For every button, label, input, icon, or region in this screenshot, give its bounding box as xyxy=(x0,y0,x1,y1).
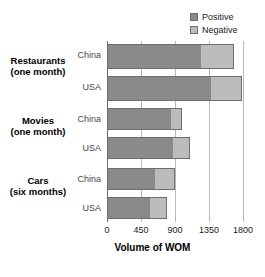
legend-label-positive: Positive xyxy=(202,12,234,22)
x-axis-ticks: 045090013501800 xyxy=(107,225,243,239)
series-label-axis: China USA China USA China USA xyxy=(0,41,105,222)
series-label-restaurants-usa: USA xyxy=(5,82,105,92)
x-tick-label-0: 0 xyxy=(104,225,109,235)
stacked-bar xyxy=(107,137,190,159)
wom-volume-bar-chart: Positive Negative Restaurants (one month… xyxy=(0,0,265,277)
legend-swatch-positive-icon xyxy=(190,13,198,21)
bar-segment-positive xyxy=(108,109,171,129)
bar-segment-negative xyxy=(173,138,189,158)
bar-segment-negative xyxy=(150,198,166,218)
legend-item-negative: Negative xyxy=(190,24,238,35)
bar-segment-negative xyxy=(155,169,174,189)
bar-segment-positive xyxy=(108,198,150,218)
x-axis-title: Volume of WOM xyxy=(0,242,265,253)
series-label-movies-usa: USA xyxy=(5,143,105,153)
x-tick-label-1350: 1350 xyxy=(199,225,219,235)
series-label-cars-china: China xyxy=(5,174,105,184)
plot-area xyxy=(107,41,243,222)
chart-legend: Positive Negative xyxy=(190,11,238,35)
bar-segment-negative xyxy=(201,45,233,68)
bar-segment-positive xyxy=(108,138,173,158)
series-label-cars-usa: USA xyxy=(5,203,105,213)
series-label-movies-china: China xyxy=(5,114,105,124)
bar-segment-positive xyxy=(108,77,211,100)
bar-segment-negative xyxy=(211,77,242,100)
bar-segment-negative xyxy=(171,109,181,129)
series-label-restaurants-china: China xyxy=(5,50,105,60)
bar-series-container xyxy=(107,41,243,222)
stacked-bar xyxy=(107,168,175,190)
x-tick-label-450: 450 xyxy=(133,225,148,235)
gridline-1800 xyxy=(243,41,244,222)
legend-item-positive: Positive xyxy=(190,11,238,22)
bar-segment-positive xyxy=(108,45,201,68)
x-tick-label-900: 900 xyxy=(167,225,182,235)
stacked-bar xyxy=(107,108,182,130)
stacked-bar xyxy=(107,44,234,69)
x-tick-label-1800: 1800 xyxy=(233,225,253,235)
stacked-bar xyxy=(107,197,167,219)
legend-label-negative: Negative xyxy=(202,25,238,35)
legend-swatch-negative-icon xyxy=(190,26,198,34)
bar-segment-positive xyxy=(108,169,155,189)
stacked-bar xyxy=(107,76,242,101)
